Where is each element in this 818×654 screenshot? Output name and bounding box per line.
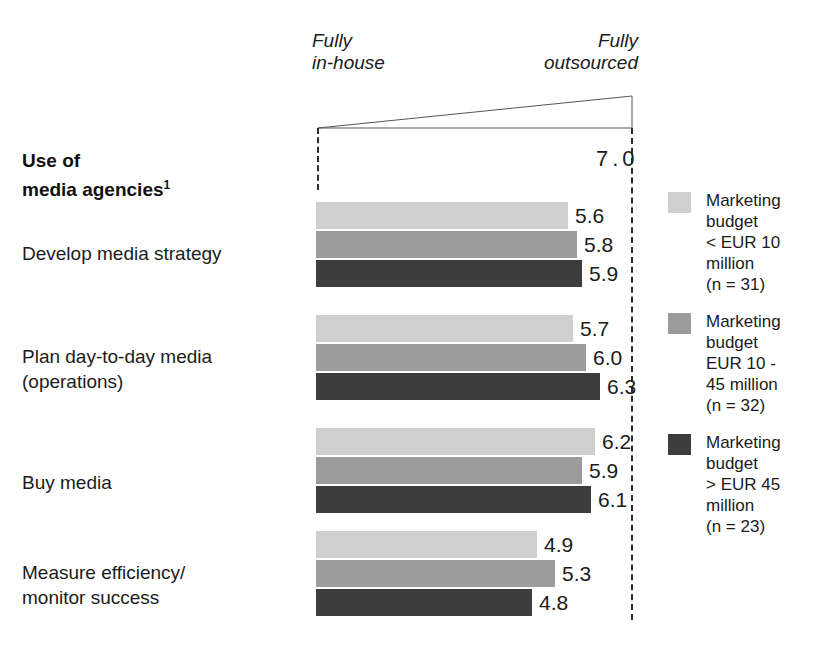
legend-swatch-icon (668, 313, 691, 334)
page-title-line1: Use of (22, 150, 80, 171)
bar-series1[interactable] (316, 202, 568, 229)
page-title-footnote-marker: 1 (164, 178, 171, 192)
bar-series1[interactable] (316, 428, 595, 455)
bar-series3[interactable] (316, 260, 582, 287)
bar-value-label: 5.8 (577, 233, 613, 257)
legend-item-label: Marketing budget > EUR 45 million (n = 2… (706, 432, 816, 537)
row-label-measure-efficiency: Measure efficiency/ monitor success (22, 560, 312, 610)
bar-value-label: 5.9 (582, 262, 618, 286)
page-title: Use ofmedia agencies1 (22, 148, 312, 202)
bar-series3[interactable] (316, 589, 532, 616)
legend-swatch-icon (668, 434, 691, 455)
bar-value-label: 4.8 (532, 591, 568, 615)
axis-line-left (317, 128, 319, 190)
bar-value-label: 6.1 (591, 488, 627, 512)
row-label-plan-day-to-day-media: Plan day-to-day media (operations) (22, 344, 312, 394)
bar-value-label: 5.6 (568, 204, 604, 228)
legend-swatch-icon (668, 192, 691, 213)
bar-value-label: 5.7 (573, 317, 609, 341)
table-row: 4.8 (316, 589, 816, 616)
row-label-develop-media-strategy: Develop media strategy (22, 241, 312, 266)
bar-series2[interactable] (316, 231, 577, 258)
bar-value-label: 5.3 (555, 562, 591, 586)
legend-item-budget-under-10m[interactable]: Marketing budget < EUR 10 million (n = 3… (666, 190, 816, 295)
bar-value-label: 4.9 (537, 533, 573, 557)
bar-value-label: 6.2 (595, 430, 631, 454)
bar-value-label: 6.0 (586, 346, 622, 370)
bar-series2[interactable] (316, 457, 582, 484)
chart-root: Fully in-house Fully outsourced 7.0 Use … (0, 0, 818, 654)
page-title-line2: media agencies (22, 179, 164, 200)
bar-series3[interactable] (316, 373, 600, 400)
bar-value-label: 6.3 (600, 375, 636, 399)
legend-item-budget-over-45m[interactable]: Marketing budget > EUR 45 million (n = 2… (666, 432, 816, 537)
bar-series1[interactable] (316, 531, 537, 558)
legend: Marketing budget < EUR 10 million (n = 3… (666, 190, 816, 553)
bar-series2[interactable] (316, 344, 586, 371)
bar-series2[interactable] (316, 560, 555, 587)
legend-item-label: Marketing budget EUR 10 - 45 million (n … (706, 311, 816, 416)
bar-value-label: 5.9 (582, 459, 618, 483)
legend-item-label: Marketing budget < EUR 10 million (n = 3… (706, 190, 816, 295)
legend-item-budget-10-45m[interactable]: Marketing budget EUR 10 - 45 million (n … (666, 311, 816, 416)
bar-series1[interactable] (316, 315, 573, 342)
row-label-buy-media: Buy media (22, 470, 312, 495)
bar-series3[interactable] (316, 486, 591, 513)
table-row: 5.3 (316, 560, 816, 587)
axis-max-tick-label: 7.0 (596, 146, 639, 172)
